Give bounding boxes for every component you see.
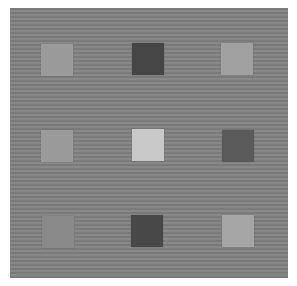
square-r2-c3 bbox=[222, 130, 254, 162]
square-r3-c3 bbox=[222, 215, 254, 247]
square-r1-c3 bbox=[221, 43, 253, 75]
square-r1-c1 bbox=[41, 44, 73, 76]
square-r1-c2 bbox=[132, 43, 164, 75]
square-r3-c1 bbox=[42, 216, 74, 248]
striped-gray-panel bbox=[10, 8, 288, 278]
square-r2-c2 bbox=[132, 129, 164, 161]
square-r3-c2 bbox=[131, 215, 163, 247]
stimulus-image bbox=[0, 0, 297, 286]
square-r2-c1 bbox=[41, 130, 73, 162]
